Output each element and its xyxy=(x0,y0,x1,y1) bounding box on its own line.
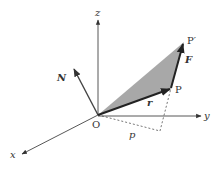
distance-p-label: p xyxy=(129,129,136,140)
diagram-canvas: z y x O P P′ N F r p xyxy=(0,0,221,171)
dashed-line-foot-p xyxy=(160,88,171,131)
y-axis-label: y xyxy=(203,110,210,121)
x-axis-label: x xyxy=(10,149,16,160)
point-p-label: P xyxy=(175,84,182,95)
vector-n xyxy=(74,69,98,115)
vector-f-label: F xyxy=(184,54,193,65)
vector-n-label: N xyxy=(56,72,67,83)
vector-r-label: r xyxy=(147,97,153,108)
origin-label: O xyxy=(92,119,100,130)
z-axis-label: z xyxy=(94,7,101,18)
x-axis xyxy=(22,115,98,154)
point-p-prime-label: P′ xyxy=(187,35,197,46)
diagram-svg: z y x O P P′ N F r p xyxy=(0,0,221,171)
triangle-opp-area xyxy=(98,42,184,115)
